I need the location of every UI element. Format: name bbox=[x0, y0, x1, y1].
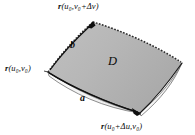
label-point-origin: r(u₀,v₀) bbox=[5, 64, 31, 73]
label-point-u-increment: r(u₀+Δu,v₀) bbox=[101, 122, 142, 131]
surface-patch-figure: r(u₀,v₀+Δv) r(u₀,v₀) r(u₀+Δu,v₀) b a D bbox=[0, 0, 195, 135]
label-vector-b: b bbox=[70, 40, 75, 50]
label-vector-a: a bbox=[80, 93, 85, 103]
label-point-v-increment: r(u₀,v₀+Δv) bbox=[58, 2, 99, 11]
label-region-d: D bbox=[108, 55, 117, 68]
label-point-origin-args: (u₀,v₀) bbox=[8, 63, 30, 73]
label-point-u-increment-args: (u₀+Δu,v₀) bbox=[104, 121, 142, 131]
label-point-v-increment-args: (u₀,v₀+Δv) bbox=[61, 1, 98, 11]
leader-line-left bbox=[44, 71, 48, 72]
